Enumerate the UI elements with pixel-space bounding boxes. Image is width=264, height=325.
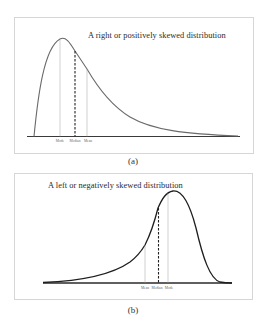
panel-a-tick-mode: Mode <box>56 139 64 143</box>
panel-b-title: A left or negatively skewed distribution <box>48 181 183 190</box>
panel-b-tick-median: Median <box>152 286 163 290</box>
panel-a-curve <box>34 38 238 136</box>
panel-a-tick-median: Median <box>70 139 81 143</box>
panel-b-tick-mean: Mean <box>141 286 149 290</box>
panel-b-plot <box>43 191 232 283</box>
panel-b-caption: (b) <box>128 305 139 315</box>
panel-a-tick-mean: Mean <box>84 139 92 143</box>
panel-b-tick-mode: Mode <box>165 286 173 290</box>
panel-a-plot <box>27 38 240 136</box>
panel-a-caption: (a) <box>128 156 138 166</box>
panel-b-curve <box>43 191 232 283</box>
panel-a-title: A right or positively skewed distributio… <box>88 31 226 40</box>
